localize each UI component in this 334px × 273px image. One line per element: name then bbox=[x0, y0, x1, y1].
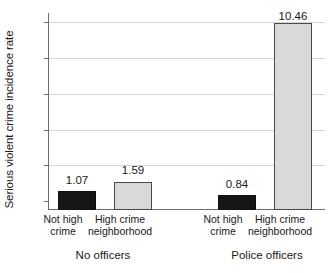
category-label-no-officers-high-crime: High crime neighborhood bbox=[81, 214, 159, 237]
plot-area: 1.07 1.59 0.84 10.46 bbox=[48, 13, 325, 210]
y-axis-line bbox=[48, 13, 49, 210]
y-tick-mark-0 bbox=[44, 201, 48, 202]
bar-value-police-officers-not-high-crime: 0.84 bbox=[212, 178, 262, 190]
category-label-line2: neighborhood bbox=[81, 226, 159, 238]
bar-no-officers-not-high-crime bbox=[58, 191, 96, 210]
bar-police-officers-high-crime bbox=[274, 23, 312, 210]
bar-value-no-officers-high-crime: 1.59 bbox=[108, 164, 158, 176]
category-label-line1: High crime bbox=[241, 214, 319, 226]
category-label-line1: High crime bbox=[81, 214, 159, 226]
y-tick-mark-2 bbox=[44, 165, 48, 166]
bar-police-officers-not-high-crime bbox=[218, 195, 256, 210]
group-label-no-officers: No officers bbox=[48, 249, 158, 262]
category-label-line2: neighborhood bbox=[241, 226, 319, 238]
group-label-police-officers: Police officers bbox=[208, 249, 326, 262]
y-axis-title-text: Serious violent crime incidence rate bbox=[0, 13, 18, 226]
category-label-police-officers-high-crime: High crime neighborhood bbox=[241, 214, 319, 237]
bar-value-no-officers-not-high-crime: 1.07 bbox=[52, 174, 102, 186]
y-axis-title: Serious violent crime incidence rate bbox=[0, 13, 18, 226]
bar-value-police-officers-high-crime: 10.46 bbox=[266, 10, 320, 22]
bar-chart-figure: Serious violent crime incidence rate 10 … bbox=[0, 0, 334, 273]
y-tick-mark-10 bbox=[44, 22, 48, 23]
bar-no-officers-high-crime bbox=[114, 182, 152, 211]
y-tick-mark-6 bbox=[44, 94, 48, 95]
y-tick-mark-4 bbox=[44, 130, 48, 131]
y-tick-mark-8 bbox=[44, 58, 48, 59]
